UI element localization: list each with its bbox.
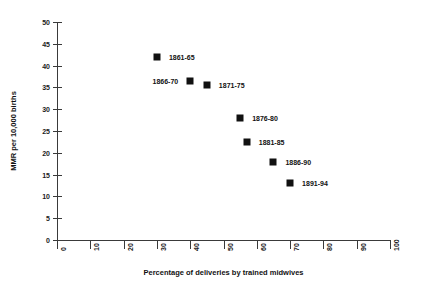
x-tick	[257, 240, 258, 249]
y-tick	[53, 22, 62, 23]
data-point-marker	[237, 114, 244, 121]
y-tick	[53, 131, 62, 132]
y-axis-title: MMR per 10,000 births	[9, 91, 18, 171]
data-point-label: 1891-94	[302, 180, 328, 187]
y-tick-label: 0	[46, 237, 50, 244]
x-tick	[124, 240, 125, 249]
data-point-marker	[203, 82, 210, 89]
y-tick-label: 20	[42, 149, 50, 156]
x-tick-label: 40	[193, 243, 200, 251]
y-tick	[53, 175, 62, 176]
data-point-marker	[243, 138, 250, 145]
scatter-chart-figure: 05101520253035404550 0102030405060708090…	[0, 0, 424, 292]
y-tick-label: 30	[42, 106, 50, 113]
data-point-label: 1876-80	[252, 114, 278, 121]
y-tick	[53, 196, 62, 197]
x-tick	[190, 240, 191, 249]
y-tick-label: 35	[42, 84, 50, 91]
x-tick-label: 60	[260, 243, 267, 251]
y-tick-label: 10	[42, 193, 50, 200]
x-tick	[323, 240, 324, 249]
y-tick	[53, 109, 62, 110]
x-tick	[157, 240, 158, 249]
data-point-marker	[287, 180, 294, 187]
data-point-label: 1866-70	[153, 77, 179, 84]
y-tick	[53, 153, 62, 154]
y-tick-label: 45	[42, 40, 50, 47]
data-point-label: 1861-65	[169, 53, 195, 60]
x-tick	[290, 240, 291, 249]
y-tick-label: 25	[42, 128, 50, 135]
x-tick-label: 50	[227, 243, 234, 251]
x-tick-label: 100	[393, 239, 400, 251]
x-tick-label: 70	[293, 243, 300, 251]
x-axis-title: Percentage of deliveries by trained midw…	[57, 268, 390, 277]
x-tick-label: 90	[360, 243, 367, 251]
x-tick	[90, 240, 91, 249]
data-point-label: 1886-90	[285, 158, 311, 165]
x-tick-label: 0	[60, 247, 67, 251]
y-tick-label: 50	[42, 19, 50, 26]
x-tick-label: 30	[160, 243, 167, 251]
x-tick	[224, 240, 225, 249]
y-tick	[53, 44, 62, 45]
x-tick	[357, 240, 358, 249]
x-tick	[390, 240, 391, 249]
y-tick	[53, 218, 62, 219]
x-tick	[57, 240, 58, 249]
y-tick	[53, 66, 62, 67]
data-point-marker	[153, 53, 160, 60]
x-tick-label: 10	[93, 243, 100, 251]
y-tick-label: 5	[46, 215, 50, 222]
y-tick-label: 40	[42, 62, 50, 69]
data-point-marker	[187, 77, 194, 84]
data-point-label: 1881-85	[259, 138, 285, 145]
data-point-marker	[270, 158, 277, 165]
y-tick-label: 15	[42, 171, 50, 178]
y-tick	[53, 87, 62, 88]
plot-area: 05101520253035404550 0102030405060708090…	[57, 22, 390, 240]
x-tick-label: 80	[326, 243, 333, 251]
data-point-label: 1871-75	[219, 82, 245, 89]
x-tick-label: 20	[127, 243, 134, 251]
